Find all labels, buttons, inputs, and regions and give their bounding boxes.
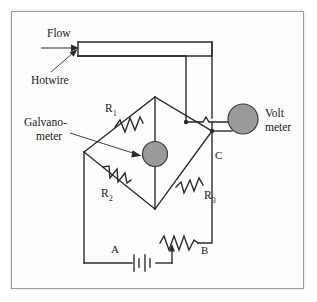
top-wiring: [78, 42, 212, 122]
resistor-r3-base: R: [204, 189, 212, 201]
hotwire-element: [78, 42, 212, 56]
hotwire-leader: [51, 49, 78, 72]
hotwire-label: Hotwire: [31, 74, 69, 86]
figure-root: Flow Hotwire Galvano- meter Volt meter C…: [0, 0, 317, 302]
resistor-r3-symbol: [176, 178, 203, 193]
battery-symbol: [134, 255, 150, 271]
voltmeter-label-line2: meter: [265, 121, 291, 133]
resistor-r2-label: R 2: [101, 187, 113, 203]
node-dot-bridge-top-right: [184, 120, 188, 124]
galvanometer-leader: [70, 133, 142, 158]
voltmeter: [199, 104, 258, 134]
flow-arrow-icon: [41, 45, 79, 52]
circuit-diagram: Flow Hotwire Galvano- meter Volt meter C…: [0, 0, 317, 302]
flow-label: Flow: [47, 27, 71, 39]
resistor-r2-symbol: [103, 166, 131, 183]
bottom-loop-wire: [84, 244, 175, 263]
galvanometer-label-line1: Galvano-: [24, 116, 67, 128]
node-c-label: C: [215, 149, 222, 161]
rheostat-symbol: [160, 236, 198, 250]
galvanometer: [143, 142, 168, 167]
resistor-r2-subscript: 2: [109, 194, 113, 203]
voltmeter-label-line1: Volt: [265, 107, 285, 119]
galvanometer-label-line2: meter: [36, 130, 62, 142]
resistor-r3-subscript: 3: [212, 196, 216, 205]
node-b-label: B: [201, 244, 208, 256]
resistor-r1-base: R: [105, 102, 113, 114]
resistor-r3-label: R 3: [204, 189, 216, 205]
resistor-r1-label: R 1: [105, 102, 117, 118]
node-a-label: A: [111, 243, 119, 255]
resistor-r1-subscript: 1: [113, 109, 117, 118]
resistor-r2-base: R: [101, 187, 109, 199]
